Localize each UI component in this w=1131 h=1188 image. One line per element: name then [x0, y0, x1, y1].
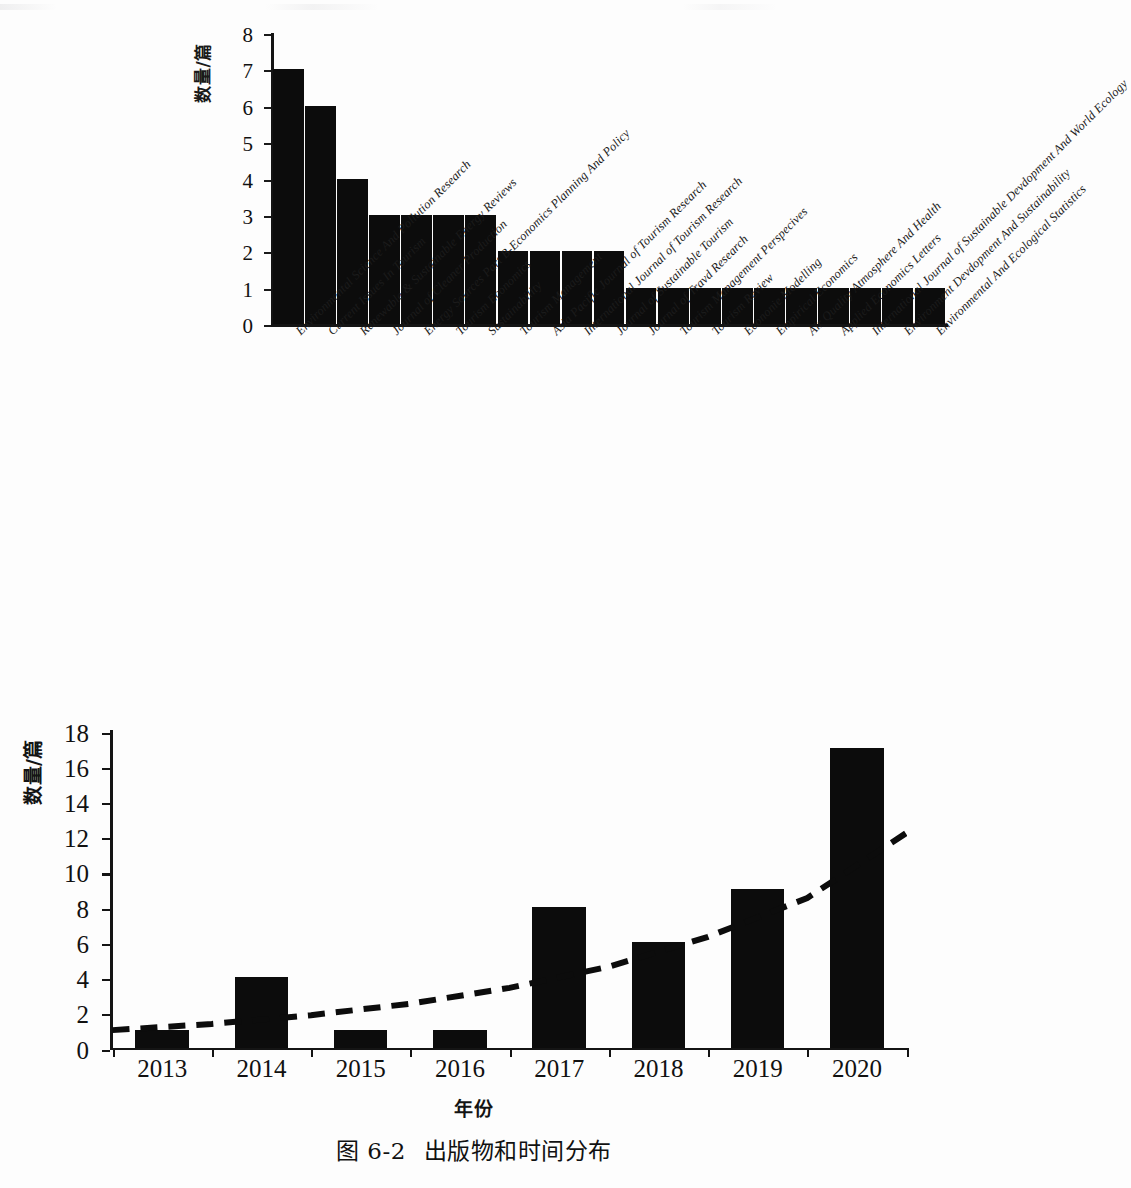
figure-caption: 图 6-2出版物和时间分布	[0, 1132, 948, 1166]
chart2-x-tick-label: 2014	[212, 1055, 311, 1083]
chart2-bar-slot	[311, 731, 410, 1048]
chart2-y-tick: 12	[102, 838, 110, 840]
chart2-x-tick-label: 2018	[609, 1055, 708, 1083]
chart2-y-tick-label: 10	[64, 860, 89, 888]
chart2-bar	[731, 889, 785, 1048]
chart1-y-tick-label: 4	[243, 168, 254, 193]
chart2-y-tick-label: 12	[64, 825, 89, 853]
chart1-y-tick: 2	[264, 252, 271, 254]
chart1-y-axis-label: 数量/篇	[189, 18, 211, 128]
chart1-y-tick: 7	[264, 70, 271, 72]
chart2-y-tick: 10	[102, 873, 110, 875]
chart2-x-tick-label: 2015	[311, 1055, 410, 1083]
chart1-y-tick: 3	[264, 216, 271, 218]
chart2-y-tick-label: 8	[77, 896, 90, 924]
chart1-y-tick-label: 8	[243, 23, 254, 48]
chart2-bar-slot	[609, 731, 708, 1048]
chart2-x-axis-title: 年份	[0, 1094, 948, 1121]
chart1-y-tick-label: 1	[243, 277, 254, 302]
chart2-y-tick: 4	[102, 979, 110, 981]
chart2-y-tick-label: 18	[64, 720, 89, 748]
chart2-bar	[235, 977, 289, 1047]
chart2-y-tick: 6	[102, 944, 110, 946]
chart2-bar-slot	[410, 731, 509, 1048]
figure-caption-text: 出版物和时间分布	[424, 1138, 612, 1164]
chart2-y-tick: 0	[102, 1050, 110, 1052]
chart1-y-tick-label: 7	[243, 59, 254, 84]
journal-distribution-chart: 数量/篇 012345678 Environmental Science And…	[0, 0, 948, 600]
chart2-bar-slot	[510, 731, 609, 1048]
chart2-bar-slot	[212, 731, 311, 1048]
chart2-bar-slot	[113, 731, 212, 1048]
chart1-y-tick: 4	[264, 180, 271, 182]
chart2-bar-series	[113, 731, 907, 1048]
chart2-bar	[433, 1030, 487, 1048]
chart2-y-tick-label: 16	[64, 755, 89, 783]
chart2-y-tick: 14	[102, 803, 110, 805]
chart1-y-tick: 8	[264, 34, 271, 36]
figure-caption-number: 图 6-2	[336, 1138, 406, 1164]
chart2-y-tick-label: 0	[77, 1037, 90, 1065]
chart1-y-tick-label: 3	[243, 204, 254, 229]
chart2-bar	[135, 1030, 189, 1048]
chart1-y-tick-label: 6	[243, 95, 254, 120]
chart2-y-tick-label: 4	[77, 966, 90, 994]
chart1-y-tick: 1	[264, 289, 271, 291]
chart2-x-tick-label: 2017	[510, 1055, 609, 1083]
chart2-bar-slot	[807, 731, 906, 1048]
chart2-y-tick: 16	[102, 768, 110, 770]
chart2-x-axis-tick-labels: 20132014201520162017201820192020	[113, 1055, 907, 1083]
chart2-bar	[830, 748, 884, 1047]
chart2-x-axis-line	[110, 1048, 907, 1051]
chart1-y-tick-label: 2	[243, 241, 254, 266]
chart1-y-tick: 5	[264, 143, 271, 145]
chart2-bar-slot	[708, 731, 807, 1048]
chart2-x-tick-label: 2019	[708, 1055, 807, 1083]
chart2-plot-area: 024681012141618	[110, 730, 907, 1050]
chart2-x-tick	[907, 1048, 909, 1057]
chart2-y-tick-label: 6	[77, 931, 90, 959]
chart1-category-labels: Environmental Science And Pollution Rese…	[0, 326, 948, 596]
chart2-y-tick: 18	[102, 733, 110, 735]
chart2-y-axis-label: 数量/篇	[18, 712, 42, 832]
chart2-x-tick-label: 2016	[410, 1055, 509, 1083]
chart2-y-tick: 8	[102, 909, 110, 911]
chart2-x-tick-label: 2020	[807, 1055, 906, 1083]
chart2-y-tick-label: 2	[77, 1001, 90, 1029]
chart1-bar	[273, 69, 304, 324]
chart1-y-tick: 6	[264, 107, 271, 109]
chart2-bar	[334, 1030, 388, 1048]
chart2-x-tick-label: 2013	[113, 1055, 212, 1083]
chart2-bar	[632, 942, 686, 1048]
chart2-bar	[532, 907, 586, 1048]
chart2-y-tick-label: 14	[64, 790, 89, 818]
chart1-y-tick-label: 5	[243, 132, 254, 157]
chart2-y-tick: 2	[102, 1014, 110, 1016]
